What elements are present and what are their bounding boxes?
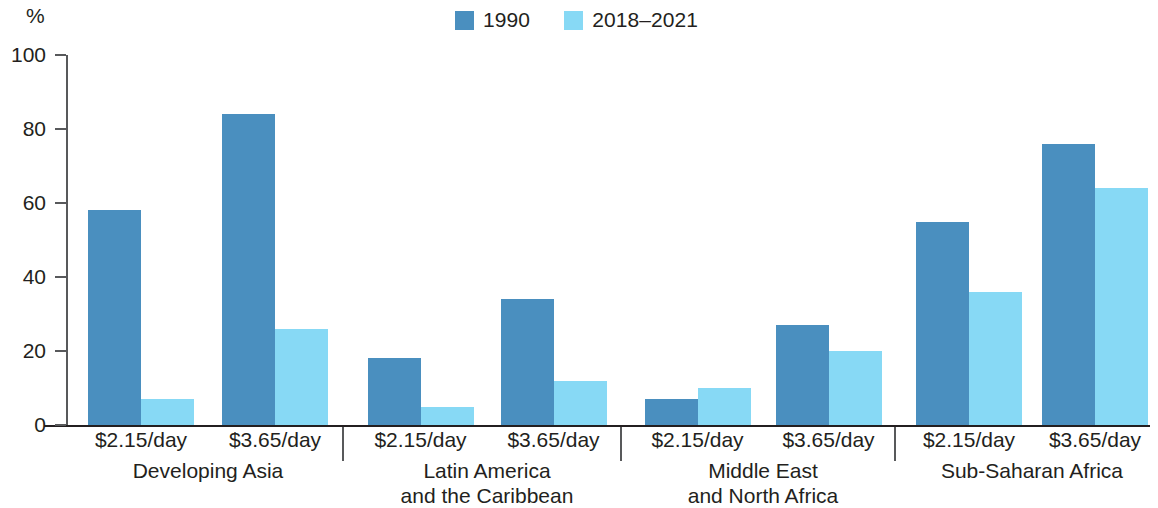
- bar-group: [354, 55, 620, 425]
- chart-legend: 19902018–2021: [455, 6, 698, 34]
- bar-pair: [368, 55, 474, 425]
- poverty-rate-bar-chart: % 19902018–2021 020406080100 $2.15/day$3…: [0, 0, 1158, 508]
- bar-2018-2021[interactable]: [829, 351, 882, 425]
- legend-swatch-icon: [455, 11, 474, 30]
- x-axis-group-label: Latin Americaand the Caribbean: [354, 459, 620, 508]
- legend-label: 2018–2021: [592, 8, 698, 32]
- bar-groups: [66, 55, 1150, 425]
- y-axis-tick-label: 40: [23, 265, 46, 289]
- bar-pair: [645, 55, 751, 425]
- group-label-line-2: and the Caribbean: [354, 484, 620, 508]
- group-label-line-1: Latin America: [423, 459, 550, 482]
- group-separator-tick: [342, 427, 344, 461]
- bar-2018-2021[interactable]: [1095, 188, 1148, 425]
- x-axis-pair-label: $3.65/day: [487, 428, 620, 452]
- y-axis-tick: 0: [55, 424, 66, 426]
- group-label-line-1: Middle East: [708, 459, 818, 482]
- bar-2018-2021[interactable]: [275, 329, 328, 425]
- legend-swatch-icon: [564, 11, 583, 30]
- x-axis-pair-label: $3.65/day: [1032, 428, 1158, 452]
- y-axis-tick: 60: [55, 202, 66, 204]
- plot-area: 020406080100: [66, 55, 1150, 425]
- x-axis-pair-label: $2.15/day: [632, 428, 763, 452]
- bar-2018-2021[interactable]: [554, 381, 607, 425]
- legend-item[interactable]: 1990: [455, 8, 530, 32]
- y-axis-tick-label: 60: [23, 191, 46, 215]
- y-axis-tick-label: 20: [23, 339, 46, 363]
- bar-group: [906, 55, 1158, 425]
- x-axis-pair-label: $3.65/day: [763, 428, 894, 452]
- bar-1990[interactable]: [1042, 144, 1095, 425]
- group-separator-tick: [620, 427, 622, 461]
- bar-group: [74, 55, 342, 425]
- bar-1990[interactable]: [88, 210, 141, 425]
- group-label-line-1: Sub-Saharan Africa: [941, 459, 1123, 482]
- y-axis-tick: 20: [55, 350, 66, 352]
- bar-2018-2021[interactable]: [421, 407, 474, 426]
- bar-1990[interactable]: [916, 222, 969, 426]
- category-label-layer: $2.15/day$3.65/dayDeveloping Asia$2.15/d…: [66, 427, 1150, 508]
- y-axis-unit-label: %: [26, 4, 45, 28]
- group-label-line-1: Developing Asia: [133, 459, 284, 482]
- bar-pair: [501, 55, 607, 425]
- bar-group: [632, 55, 894, 425]
- x-axis-pair-label: $2.15/day: [74, 428, 208, 452]
- bar-2018-2021[interactable]: [698, 388, 751, 425]
- bar-1990[interactable]: [776, 325, 829, 425]
- bar-pair: [222, 55, 328, 425]
- x-axis-pair-label: $2.15/day: [354, 428, 487, 452]
- bar-pair: [1042, 55, 1148, 425]
- y-axis-tick: 100: [55, 54, 66, 56]
- bar-1990[interactable]: [368, 358, 421, 425]
- bar-pair: [776, 55, 882, 425]
- legend-item[interactable]: 2018–2021: [564, 8, 698, 32]
- bar-pair: [916, 55, 1022, 425]
- x-axis-group-label: Sub-Saharan Africa: [906, 459, 1158, 484]
- bar-2018-2021[interactable]: [141, 399, 194, 425]
- legend-label: 1990: [483, 8, 530, 32]
- y-axis-tick-label: 80: [23, 117, 46, 141]
- y-axis-tick: 80: [55, 128, 66, 130]
- y-axis-tick-label: 100: [11, 43, 46, 67]
- y-axis-tick: 40: [55, 276, 66, 278]
- bar-1990[interactable]: [501, 299, 554, 425]
- x-axis-group-label: Middle Eastand North Africa: [632, 459, 894, 508]
- y-axis-tick-label: 0: [34, 413, 46, 437]
- bar-1990[interactable]: [222, 114, 275, 425]
- x-axis-pair-label: $2.15/day: [906, 428, 1032, 452]
- x-axis-group-label: Developing Asia: [74, 459, 342, 484]
- group-separator-tick: [894, 427, 896, 461]
- x-axis-pair-label: $3.65/day: [208, 428, 342, 452]
- bar-pair: [88, 55, 194, 425]
- bar-2018-2021[interactable]: [969, 292, 1022, 425]
- bar-1990[interactable]: [645, 399, 698, 425]
- group-label-line-2: and North Africa: [632, 484, 894, 508]
